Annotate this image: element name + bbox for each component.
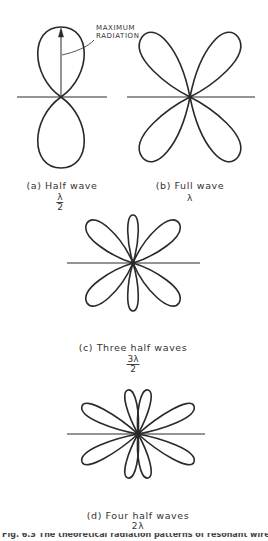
lobe-lower bbox=[38, 97, 85, 168]
pattern-full-wave bbox=[127, 32, 255, 161]
label-three-half-waves: (c) Three half waves bbox=[79, 342, 188, 353]
arrowhead-icon bbox=[59, 28, 64, 37]
value-full-wave: λ bbox=[187, 193, 193, 203]
annotation-leader bbox=[62, 40, 94, 55]
value-three-half-waves: 3λ 2 bbox=[126, 355, 139, 374]
label-half-wave: (a) Half wave bbox=[26, 180, 97, 191]
pattern-four-half-waves bbox=[67, 390, 205, 478]
annotation-line-1: MAXIMUM bbox=[96, 24, 140, 32]
fraction-denominator: 2 bbox=[126, 365, 139, 374]
fraction-denominator: 2 bbox=[56, 203, 63, 212]
radiation-pattern-diagram bbox=[0, 0, 268, 541]
value-four-half-waves: 2λ bbox=[132, 521, 144, 531]
annotation-maximum-radiation: MAXIMUM RADIATION bbox=[96, 24, 140, 40]
pattern-three-half-waves bbox=[67, 215, 200, 311]
label-full-wave: (b) Full wave bbox=[156, 180, 225, 191]
value-half-wave: λ 2 bbox=[56, 193, 63, 212]
annotation-line-2: RADIATION bbox=[96, 32, 140, 40]
pattern-half-wave bbox=[17, 27, 107, 168]
label-four-half-waves: (d) Four half waves bbox=[87, 510, 190, 521]
